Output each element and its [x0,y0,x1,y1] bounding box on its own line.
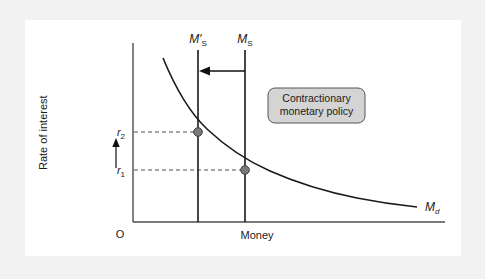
figure-panel: Rate of interest O Money r2 r1 Md M′S MS [25,20,461,256]
x-axis-title: Money [240,229,274,241]
y-axis-title: Rate of interest [37,95,49,170]
ms-new-sub: S [201,39,206,48]
y-tick-r2-sub: 2 [121,132,126,141]
supply-shift-arrowhead [199,67,210,76]
money-supply-new-label: M′S [189,32,207,48]
y-tick-r1-sub: 1 [121,170,126,179]
equilibrium-point-1 [241,166,250,175]
policy-callout-line1: Contractionary [282,92,351,104]
origin-label: O [116,228,125,240]
interest-rate-rise-arrowhead [112,138,119,147]
md-base: M [425,200,435,214]
figure-root: Rate of interest O Money r2 r1 Md M′S MS [0,0,485,279]
y-tick-label-r1: r1 [117,164,126,179]
equilibrium-point-2 [194,128,203,137]
money-demand-curve-label: Md [425,200,440,216]
money-market-chart: Rate of interest O Money r2 r1 Md M′S MS [25,20,461,256]
md-sub: d [435,207,440,216]
y-tick-label-r2: r2 [117,126,126,141]
policy-callout-line2: monetary policy [280,105,354,117]
ms-base: M [237,32,247,46]
ms-new-base: M [189,32,199,46]
ms-sub: S [247,39,252,48]
money-supply-initial-label: MS [237,32,252,48]
